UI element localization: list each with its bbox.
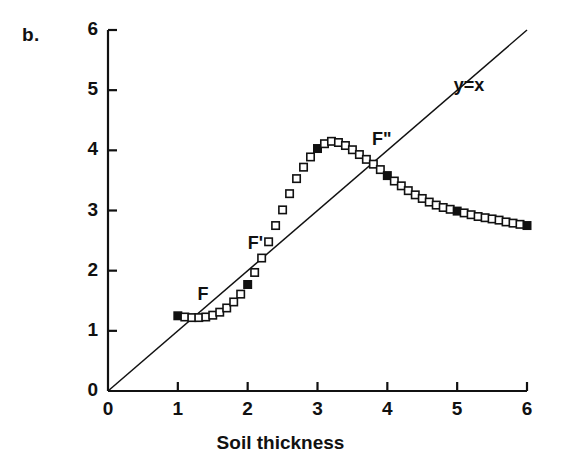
- data-point-open: [272, 222, 279, 229]
- y-axis-ticks: [108, 30, 117, 331]
- y-tick-label: 4: [72, 138, 98, 160]
- x-tick-label: 5: [444, 398, 470, 420]
- data-point-open: [230, 298, 237, 305]
- figure-panel-b: b. 0123456 0123456 FF'F"y=x Soil thickne…: [0, 0, 561, 467]
- y-tick-label: 0: [72, 379, 98, 401]
- data-point-open: [279, 206, 286, 213]
- data-point-open: [300, 163, 307, 170]
- data-point-open: [293, 175, 300, 182]
- data-point-open: [286, 190, 293, 197]
- data-point-open: [258, 254, 265, 261]
- data-point-open: [237, 290, 244, 297]
- x-axis-title: Soil thickness: [0, 432, 561, 454]
- panel-label: b.: [22, 24, 40, 46]
- data-point-filled: [523, 222, 530, 229]
- curve-annotation-label: y=x: [454, 75, 485, 96]
- x-tick-label: 2: [235, 398, 261, 420]
- x-axis-ticks: [178, 382, 527, 391]
- y-tick-label: 1: [72, 319, 98, 341]
- x-tick-label: 1: [165, 398, 191, 420]
- y-tick-label: 5: [72, 78, 98, 100]
- data-point-filled: [244, 281, 251, 288]
- x-tick-label: 3: [305, 398, 331, 420]
- data-point-open: [265, 238, 272, 245]
- x-tick-label: 6: [514, 398, 540, 420]
- curve-annotation-label: F': [248, 233, 263, 254]
- curve-annotation-label: F: [197, 284, 208, 305]
- data-point-open: [251, 269, 258, 276]
- curve-annotation-label: F": [372, 129, 392, 150]
- y-tick-label: 2: [72, 259, 98, 281]
- y-tick-label: 3: [72, 199, 98, 221]
- data-point-open: [307, 153, 314, 160]
- x-tick-label: 4: [374, 398, 400, 420]
- x-tick-label: 0: [95, 398, 121, 420]
- y-tick-label: 6: [72, 18, 98, 40]
- data-marker-group: [174, 138, 531, 322]
